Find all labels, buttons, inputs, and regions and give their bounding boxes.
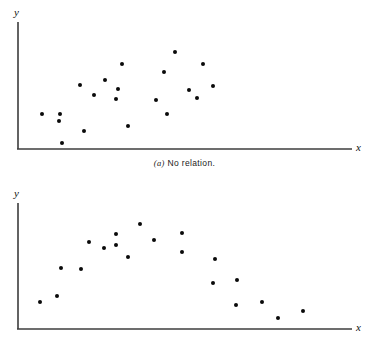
figure-panel-a: y x (a) No relation.	[0, 0, 369, 178]
axis-lines-a	[0, 0, 369, 156]
data-point	[235, 278, 239, 282]
data-point	[55, 294, 59, 298]
data-point	[87, 240, 91, 244]
data-point	[211, 281, 215, 285]
data-point	[114, 97, 118, 101]
data-point	[92, 93, 96, 97]
caption-text-a: No relation.	[168, 158, 216, 168]
data-point	[40, 112, 44, 116]
data-point	[187, 88, 191, 92]
figure-panel-b: y x (b) A nonlinear relation.	[0, 178, 369, 355]
data-point	[58, 112, 62, 116]
x-axis-label-a: x	[356, 142, 361, 153]
x-axis-label-b: x	[356, 322, 361, 333]
caption-a: (a) No relation.	[0, 158, 369, 168]
scatter-plot-a: y x	[0, 0, 369, 156]
data-point	[78, 83, 82, 87]
data-point	[211, 84, 215, 88]
data-point	[120, 62, 124, 66]
data-point	[165, 112, 169, 116]
y-axis-label-a: y	[14, 7, 19, 18]
scatter-plot-b: y x	[0, 178, 369, 332]
caption-tag-a: (a)	[154, 158, 165, 168]
data-point	[162, 70, 166, 74]
data-point	[102, 246, 106, 250]
data-point	[301, 309, 305, 313]
data-point	[180, 250, 184, 254]
data-point	[201, 62, 205, 66]
data-point	[276, 316, 280, 320]
data-point	[114, 243, 118, 247]
data-point	[234, 303, 238, 307]
y-axis-label-b: y	[14, 188, 19, 199]
data-point	[60, 141, 64, 145]
data-point	[126, 255, 130, 259]
data-point	[57, 119, 61, 123]
axis-lines-b	[0, 178, 369, 332]
data-point	[180, 231, 184, 235]
